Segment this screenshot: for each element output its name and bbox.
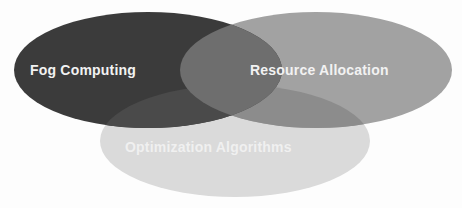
fog-computing-label: Fog Computing: [30, 62, 136, 78]
venn-svg: Fog Computing Resource Allocation Optimi…: [0, 0, 462, 208]
venn-diagram: Fog Computing Resource Allocation Optimi…: [0, 0, 462, 208]
optimization-algorithms-label: Optimization Algorithms: [125, 139, 292, 155]
resource-allocation-label: Resource Allocation: [250, 62, 389, 78]
